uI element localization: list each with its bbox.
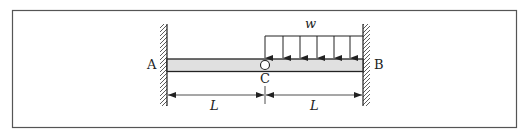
label-a: A [146, 57, 157, 72]
label-span-left: L [209, 98, 219, 113]
distributed-load [265, 36, 363, 58]
fixed-support-b [363, 24, 370, 106]
dimension-lines [168, 86, 362, 104]
label-c: C [260, 71, 270, 86]
label-load-w: w [305, 16, 316, 31]
fixed-support-a [160, 24, 167, 106]
label-span-right: L [309, 98, 319, 113]
beam-diagram: A B C w L L [0, 0, 528, 134]
hinge-c-icon [261, 61, 270, 70]
label-b: B [374, 57, 384, 72]
